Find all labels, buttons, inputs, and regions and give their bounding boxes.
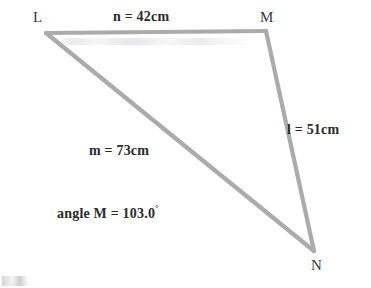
- vertex-label-l: L: [33, 10, 42, 25]
- triangle-diagram: L M N n = 42cm l = 51cm m = 73cm angle M…: [0, 0, 371, 288]
- side-label-m: m = 73cm: [89, 144, 149, 158]
- angle-prefix: angle M =: [57, 206, 123, 221]
- degree-symbol: °: [155, 203, 159, 213]
- side-label-l: l = 51cm: [287, 123, 339, 137]
- vertex-label-m: M: [260, 10, 274, 25]
- side-label-n: n = 42cm: [113, 10, 169, 24]
- side-n-line: [46, 31, 266, 33]
- angle-annotation: angle M = 103.0°: [57, 205, 159, 221]
- vertex-label-n: N: [311, 258, 322, 273]
- triangle-shape: [0, 0, 371, 288]
- angle-value: 103.0: [123, 206, 156, 221]
